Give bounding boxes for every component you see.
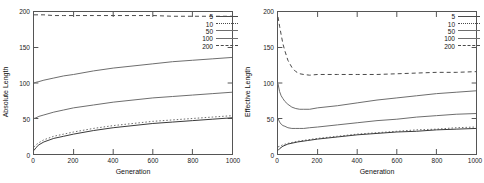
x-tick-right-2: 400 [352,157,363,164]
series-line-left-50 [34,92,232,118]
x-tick-left-3: 600 [148,157,159,164]
legend-sample-left-200 [216,45,238,47]
legend-sample-right-200 [458,45,480,47]
y-axis-ticks-right: 200 150 100 50 0 [242,0,274,183]
x-tick-left-0: 0 [31,157,35,164]
x-tick-right-0: 0 [275,157,279,164]
legend-label-right-50: 50 [448,28,455,35]
legend-item-right-200: 200 [428,43,480,50]
legend-label-right-100: 100 [444,35,455,42]
legend-label-left-10: 10 [206,21,213,28]
legend-sample-left-5 [216,16,238,18]
series-line-right-50 [278,114,476,129]
legend-sample-left-50 [216,30,238,32]
x-tick-right-1: 200 [312,157,323,164]
legend-right: 5 10 50 100 200 [428,13,480,50]
legend-item-right-100: 100 [428,35,480,42]
legend-item-right-5: 5 [428,13,480,20]
chart-panel-effective-length: Effective Length 200 150 100 50 0 [242,0,484,183]
legend-item-left-50: 50 [186,28,238,35]
x-tick-left-2: 400 [108,157,119,164]
legend-label-right-5: 5 [451,13,455,20]
series-line-right-100 [278,84,476,110]
x-tick-left-4: 800 [188,157,199,164]
legend-item-left-100: 100 [186,35,238,42]
chart-panel-absolute-length: Absolute Length 200 150 100 50 0 [0,0,242,183]
y-tick-right-1: 150 [263,44,274,51]
y-tick-left-3: 50 [23,116,30,123]
legend-item-left-5: 5 [186,13,238,20]
x-tick-right-4: 800 [432,157,443,164]
legend-item-left-10: 10 [186,20,238,27]
y-tick-left-0: 200 [19,8,30,15]
y-tick-left-1: 150 [19,44,30,51]
legend-sample-right-100 [458,38,480,40]
legend-sample-left-100 [216,38,238,40]
legend-item-right-10: 10 [428,20,480,27]
x-axis-label-left: Generation [33,168,233,175]
legend-label-left-50: 50 [206,28,213,35]
legend-item-left-200: 200 [186,43,238,50]
legend-label-right-200: 200 [444,43,455,50]
legend-sample-right-10 [458,23,480,25]
series-line-right-5 [278,128,476,150]
legend-left: 5 10 50 100 200 [186,13,238,50]
series-line-left-100 [34,57,232,83]
legend-label-left-200: 200 [202,43,213,50]
x-tick-left-1: 200 [68,157,79,164]
y-tick-left-2: 100 [19,80,30,87]
legend-sample-right-5 [458,16,480,18]
x-tick-right-5: 1000 [468,157,482,164]
x-tick-left-5: 1000 [226,157,240,164]
legend-sample-right-50 [458,30,480,32]
figure-two-line-charts: Absolute Length 200 150 100 50 0 [0,0,484,183]
legend-item-right-50: 50 [428,28,480,35]
legend-label-right-10: 10 [448,21,455,28]
x-axis-label-right: Generation [277,168,477,175]
legend-label-left-100: 100 [202,35,213,42]
legend-label-left-5: 5 [209,13,213,20]
y-tick-right-2: 100 [263,80,274,87]
x-tick-right-3: 600 [392,157,403,164]
y-tick-right-3: 50 [267,116,274,123]
y-axis-ticks-left: 200 150 100 50 0 [0,0,30,183]
legend-sample-left-10 [216,23,238,25]
y-tick-right-0: 200 [263,8,274,15]
